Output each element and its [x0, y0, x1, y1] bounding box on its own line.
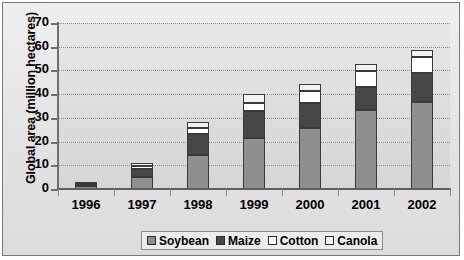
bar-segment-cotton[interactable] [355, 71, 377, 87]
bar-segment-soybean[interactable] [243, 138, 265, 189]
y-axis-tick-label: 50 [9, 61, 49, 76]
x-axis-tick-mark [58, 189, 59, 196]
legend-label: Maize [228, 234, 261, 248]
legend-swatch-icon [268, 236, 277, 245]
bar-segment-canola[interactable] [355, 64, 377, 70]
x-axis-tick-label: 1999 [226, 197, 282, 212]
x-axis-tick-mark [338, 189, 339, 196]
bar-segment-canola[interactable] [75, 182, 97, 184]
bar-stack[interactable] [411, 23, 433, 189]
x-axis-tick-mark [394, 189, 395, 196]
bar-segment-canola[interactable] [411, 50, 433, 57]
legend-item-soybean[interactable]: Soybean [147, 234, 209, 248]
y-axis-tick-label: 40 [9, 85, 49, 100]
legend-swatch-icon [147, 236, 156, 245]
x-axis-tick-mark [114, 189, 115, 196]
bar-segment-soybean[interactable] [299, 128, 321, 189]
y-axis-tick-mark [51, 189, 58, 191]
bar-segment-maize[interactable] [243, 111, 265, 137]
legend-label: Cotton [280, 234, 319, 248]
plot-area [58, 23, 450, 189]
bar-segment-canola[interactable] [243, 94, 265, 103]
chart-figure: Global area (million hectares) 706050403… [0, 0, 464, 260]
chart-legend: SoybeanMaizeCottonCanola [141, 231, 383, 250]
legend-item-cotton[interactable]: Cotton [268, 234, 319, 248]
y-axis-tick-mark [51, 165, 58, 167]
y-axis-tick-mark [51, 47, 58, 49]
x-axis-tick-label: 2002 [394, 197, 450, 212]
y-axis-tick-label: 60 [9, 38, 49, 53]
y-axis-tick-mark [51, 23, 58, 25]
y-axis-tick-mark [51, 118, 58, 120]
x-axis-tick-mark [282, 189, 283, 196]
y-axis-tick-label: 10 [9, 156, 49, 171]
x-axis-tick-label: 2000 [282, 197, 338, 212]
y-axis-tick-mark [51, 70, 58, 72]
bar-stack[interactable] [187, 23, 209, 189]
bar-stack[interactable] [243, 23, 265, 189]
x-axis-tick-label: 1997 [114, 197, 170, 212]
bar-segment-cotton[interactable] [243, 103, 265, 112]
x-axis-tick-label: 1998 [170, 197, 226, 212]
legend-item-canola[interactable]: Canola [325, 234, 377, 248]
x-axis-tick-mark [450, 189, 451, 196]
x-axis-tick-label: 2001 [338, 197, 394, 212]
chart-frame: Global area (million hectares) 706050403… [2, 2, 460, 256]
bar-stack[interactable] [131, 23, 153, 189]
bar-segment-canola[interactable] [187, 122, 209, 128]
y-axis-tick-label: 70 [9, 14, 49, 29]
bar-segment-soybean[interactable] [355, 110, 377, 189]
bar-segment-maize[interactable] [355, 87, 377, 110]
bar-segment-maize[interactable] [299, 103, 321, 127]
bar-stack[interactable] [299, 23, 321, 189]
y-axis-tick-mark [51, 94, 58, 96]
x-axis-tick-label: 1996 [58, 197, 114, 212]
legend-label: Canola [337, 234, 377, 248]
x-axis-tick-mark [170, 189, 171, 196]
bar-segment-soybean[interactable] [411, 102, 433, 189]
y-axis-tick-label: 30 [9, 109, 49, 124]
legend-swatch-icon [325, 236, 334, 245]
bar-segment-cotton[interactable] [131, 166, 153, 169]
x-axis-tick-mark [226, 189, 227, 196]
bar-segment-maize[interactable] [411, 73, 433, 102]
bar-stack[interactable] [75, 23, 97, 189]
bar-segment-maize[interactable] [187, 134, 209, 155]
legend-item-maize[interactable]: Maize [216, 234, 261, 248]
bar-segment-cotton[interactable] [299, 91, 321, 104]
bar-segment-cotton[interactable] [411, 57, 433, 73]
bar-segment-maize[interactable] [131, 169, 153, 177]
bar-segment-canola[interactable] [299, 84, 321, 91]
legend-swatch-icon [216, 236, 225, 245]
bar-segment-canola[interactable] [131, 163, 153, 166]
x-axis-line [57, 188, 451, 190]
y-axis-tick-mark [51, 142, 58, 144]
bar-segment-cotton[interactable] [187, 128, 209, 134]
y-axis-tick-label: 20 [9, 133, 49, 148]
bar-segment-soybean[interactable] [187, 155, 209, 189]
bar-stack[interactable] [355, 23, 377, 189]
legend-label: Soybean [159, 234, 209, 248]
y-axis-tick-label: 0 [9, 180, 49, 195]
